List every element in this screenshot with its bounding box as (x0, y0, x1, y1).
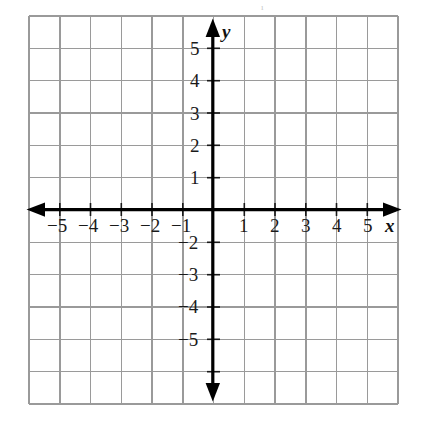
x-tick-label-5: 5 (363, 216, 373, 235)
x-tick-label-2: 2 (270, 216, 280, 235)
y-tick-label-4: 4 (190, 71, 200, 90)
y-tick-label--5: −5 (178, 330, 198, 349)
x-tick-label--3: −3 (109, 216, 129, 235)
x-axis-label: x (385, 216, 395, 235)
x-tick-label--5: −5 (47, 216, 67, 235)
y-tick-label--3: −3 (178, 265, 198, 284)
y-tick-label-2: 2 (190, 136, 200, 155)
scan-artifact-mark: ı (261, 3, 264, 12)
y-tick-label--2: −2 (178, 233, 198, 252)
x-tick-label-1: 1 (239, 216, 249, 235)
y-tick-label-3: 3 (190, 104, 200, 123)
x-tick-label--2: −2 (140, 216, 160, 235)
x-tick-label--4: −4 (78, 216, 98, 235)
arrowhead-up-icon (206, 19, 220, 38)
coordinate-plane-figure: −5 −4 −3 −2 −1 1 2 3 4 5 5 4 3 2 1 −2 −3… (0, 0, 424, 431)
axis-lines (33, 24, 396, 396)
x-tick-label-3: 3 (301, 216, 311, 235)
y-axis-label: y (222, 22, 230, 41)
y-tick-label-5: 5 (190, 39, 200, 58)
x-tick-label-4: 4 (332, 216, 342, 235)
y-tick-label-1: 1 (190, 168, 200, 187)
arrowhead-down-icon (206, 383, 220, 402)
y-tick-label--4: −4 (178, 297, 198, 316)
